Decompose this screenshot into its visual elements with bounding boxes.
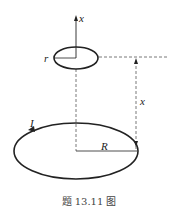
current-label: I xyxy=(30,118,34,129)
distance-label: x xyxy=(140,96,145,107)
distance-arrow-icon xyxy=(134,58,138,64)
figure-caption: 题 13.11 图 xyxy=(0,193,178,208)
axis-label: x xyxy=(79,13,84,24)
figure-diagram xyxy=(0,0,178,218)
small-radius-label: r xyxy=(44,53,48,64)
axis-arrow-icon xyxy=(74,15,78,21)
large-radius-label: R xyxy=(101,141,108,152)
